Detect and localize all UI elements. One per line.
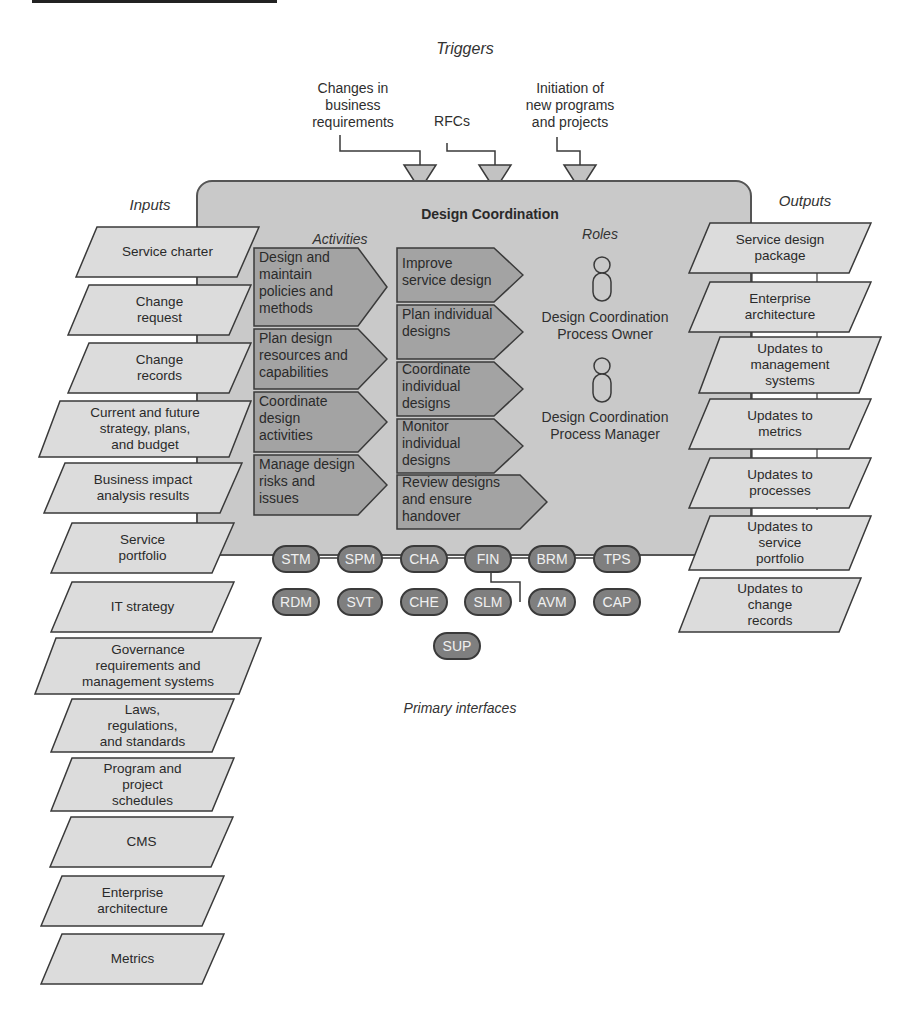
input-metrics: Metrics: [40, 933, 225, 985]
interface-cha: CHA: [400, 545, 448, 573]
interface-rdm: RDM: [272, 588, 320, 616]
interface-brm: BRM: [528, 545, 576, 573]
interfaces-heading: Primary interfaces: [390, 700, 530, 716]
interface-che: CHE: [400, 588, 448, 616]
interface-fin: FIN: [464, 545, 512, 573]
interface-stm: STM: [272, 545, 320, 573]
interface-sup: SUP: [433, 632, 481, 660]
input-program-project-schedules: Program and project schedules: [50, 757, 235, 812]
input-cms: CMS: [49, 816, 234, 868]
interface-tps: TPS: [593, 545, 641, 573]
interface-svt: SVT: [337, 588, 383, 616]
input-enterprise-architecture: Enterprise architecture: [40, 875, 225, 927]
interface-avm: AVM: [528, 588, 576, 616]
input-laws-regulations-standards: Laws, regulations, and standards: [50, 698, 235, 753]
interface-slm: SLM: [464, 588, 512, 616]
interface-spm: SPM: [337, 545, 383, 573]
interface-connectors: [0, 0, 909, 700]
interface-cap: CAP: [593, 588, 641, 616]
